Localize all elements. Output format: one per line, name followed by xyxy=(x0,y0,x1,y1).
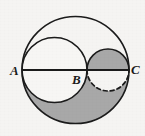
point-label-B: B xyxy=(71,72,81,87)
point-label-A: A xyxy=(9,63,19,78)
point-label-C: C xyxy=(131,62,140,77)
figure-canvas: A B C xyxy=(0,0,145,136)
geometry-figure: A B C xyxy=(0,0,145,136)
